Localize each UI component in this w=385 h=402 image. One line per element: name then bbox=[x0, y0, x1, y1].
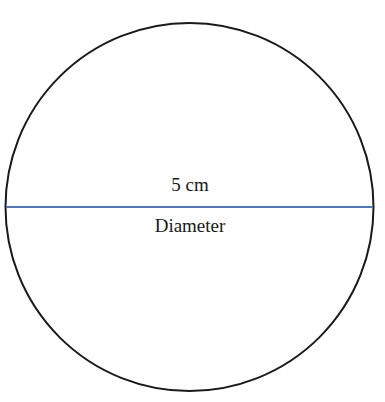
circle-diagram bbox=[0, 0, 385, 402]
diameter-measurement-label: 5 cm bbox=[171, 174, 208, 196]
diameter-name-label: Diameter bbox=[155, 215, 226, 237]
